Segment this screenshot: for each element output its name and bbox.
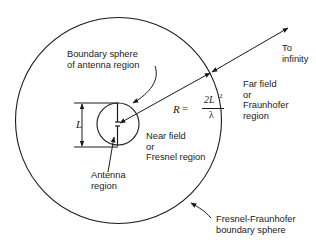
to-infinity-arrow <box>212 28 288 72</box>
formula-R: R = 2L 2 λ <box>173 96 233 126</box>
leader-antenna-region <box>108 137 114 172</box>
formula-equals: = <box>182 102 188 114</box>
formula-exponent: 2 <box>219 92 223 100</box>
formula-numerator: 2L <box>204 94 215 105</box>
leader-fresnel-fraunhofer-boundary <box>191 203 211 218</box>
label-antenna-region: Antenna region <box>91 170 126 191</box>
antenna-icon <box>115 103 120 146</box>
formula-lhs: R <box>173 103 180 115</box>
label-near-field: Near field or Fresnel region <box>146 131 205 163</box>
label-fresnel-fraunhofer-boundary: Fresnel-Fraunhofer boundary sphere <box>216 214 296 235</box>
leader-antenna-boundary <box>133 66 156 103</box>
formula-denominator: λ <box>209 109 214 120</box>
label-boundary-sphere-antenna-region: Boundary sphere of antenna region <box>67 49 139 70</box>
label-far-field: Far field or Fraunhofer region <box>243 79 288 121</box>
label-to-infinity: To infinity <box>282 43 308 64</box>
dimension-L-label: L <box>76 118 82 130</box>
